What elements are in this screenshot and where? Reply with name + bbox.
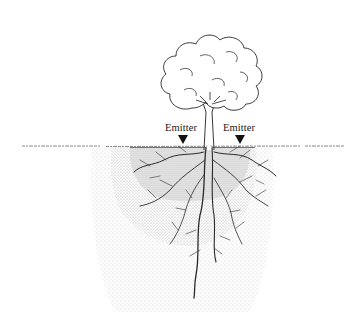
ground-line (22, 146, 345, 147)
triangle-down-icon (178, 135, 188, 144)
emitter-left-label: Emitter (165, 122, 197, 133)
emitter-right-label: Emitter (223, 122, 255, 133)
tree-irrigation-diagram (0, 0, 363, 312)
tree-canopy (161, 35, 262, 110)
triangle-down-icon (235, 135, 245, 144)
